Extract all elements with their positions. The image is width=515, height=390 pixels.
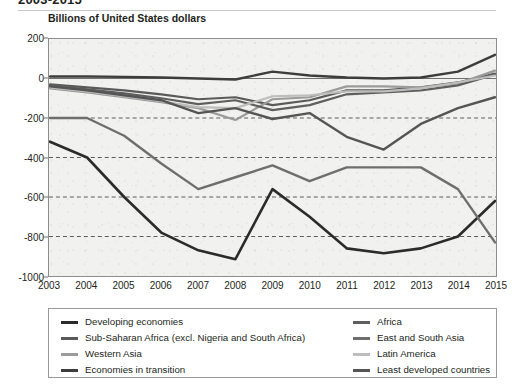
legend-item[interactable]: Western Asia — [61, 347, 353, 361]
legend-color-swatch — [353, 369, 370, 372]
axis-unit-caption: Billions of United States dollars — [48, 12, 206, 24]
legend-column-left: Developing economiesSub-Saharan Africa (… — [49, 315, 353, 377]
legend-color-swatch — [61, 337, 78, 340]
legend-item[interactable]: Least developed countries — [353, 363, 510, 377]
legend-color-swatch — [61, 369, 78, 372]
chart-legend: Developing economiesSub-Saharan Africa (… — [48, 308, 497, 378]
series-line — [50, 118, 495, 242]
plot-area — [48, 38, 497, 277]
x-tick-label: 2008 — [224, 280, 246, 291]
x-axis-tick-labels: 2003200420052006200720082009201020112012… — [48, 280, 497, 296]
figure-title-text: 2003-2015 — [18, 0, 488, 9]
legend-color-swatch — [61, 321, 78, 324]
figure-container: 2003-2015 Billions of United States doll… — [0, 0, 515, 390]
x-tick-label: 2004 — [75, 280, 97, 291]
x-tick-label: 2015 — [485, 280, 507, 291]
x-tick-label: 2010 — [299, 280, 321, 291]
legend-item[interactable]: East and South Asia — [353, 331, 510, 345]
legend-item-label: Latin America — [377, 347, 436, 361]
legend-item-label: Developing economies — [85, 315, 183, 329]
y-axis-tick-labels: 2000-200-400-600-800-1000 — [0, 38, 44, 277]
chart-lines-svg — [49, 39, 496, 276]
x-tick-label: 2003 — [38, 280, 60, 291]
title-divider — [18, 10, 496, 11]
figure-title-clipped: 2003-2015 — [18, 0, 488, 9]
legend-item-label: Least developed countries — [377, 363, 490, 377]
series-line — [50, 55, 495, 80]
legend-item-label: Sub-Saharan Africa (excl. Nigeria and So… — [85, 331, 305, 345]
legend-color-swatch — [353, 321, 370, 324]
x-tick-label: 2007 — [187, 280, 209, 291]
x-tick-label: 2009 — [261, 280, 283, 291]
y-tick-label: -800 — [0, 232, 44, 243]
y-tick-label: -600 — [0, 192, 44, 203]
x-tick-label: 2012 — [373, 280, 395, 291]
series-line — [50, 142, 495, 260]
legend-item-label: Africa — [377, 315, 402, 329]
x-tick-label: 2006 — [150, 280, 172, 291]
x-tick-label: 2013 — [410, 280, 432, 291]
legend-item-label: East and South Asia — [377, 331, 464, 345]
legend-item[interactable]: Sub-Saharan Africa (excl. Nigeria and So… — [61, 331, 353, 345]
legend-item-label: Western Asia — [85, 347, 142, 361]
legend-color-swatch — [353, 353, 370, 356]
y-tick-label: -400 — [0, 152, 44, 163]
legend-item[interactable]: Developing economies — [61, 315, 353, 329]
x-tick-label: 2014 — [448, 280, 470, 291]
y-tick-label: 200 — [0, 33, 44, 44]
legend-item-label: Economies in transition — [85, 363, 185, 377]
y-tick-label: 0 — [0, 72, 44, 83]
y-tick-label: -200 — [0, 112, 44, 123]
legend-column-right: AfricaEast and South AsiaLatin AmericaLe… — [353, 315, 510, 377]
legend-item[interactable]: Latin America — [353, 347, 510, 361]
legend-item[interactable]: Africa — [353, 315, 510, 329]
legend-color-swatch — [61, 353, 78, 356]
legend-item[interactable]: Economies in transition — [61, 363, 353, 377]
x-tick-label: 2005 — [112, 280, 134, 291]
legend-color-swatch — [353, 337, 370, 340]
x-tick-label: 2011 — [336, 280, 358, 291]
